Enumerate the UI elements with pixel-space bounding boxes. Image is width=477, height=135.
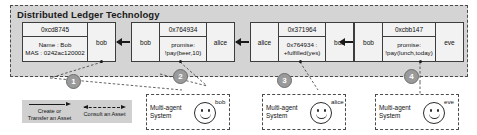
ledger-block-2-body-line2: !pay(beer,10) [165,49,201,57]
connector-node-4 [419,60,422,63]
ledger-block-3-main: 0x371964 0x764934 : +fulfilled(yes) [279,23,325,61]
ledger-block-1-body-line1: Name : Bob [39,41,72,49]
agent-alice-name: alice [331,98,344,105]
block-link-arrow-2 [236,41,249,43]
ledger-block-3-hash: 0x371964 [279,23,325,37]
ledger-block-4-body-line2: !pay(lunch,today) [385,49,432,57]
smiley-face-icon [423,102,445,124]
ledger-block-4[interactable]: bob 0xcbb147 promise: !pay(lunch,today) … [354,22,464,62]
multi-agent-system-eve-label: Multi-agent System [379,104,411,120]
legend-item-create-transfer-label: Create or Transfer an Asset [28,108,72,121]
solid-arrow-right-icon [29,102,71,107]
ledger-block-2-left-link: bob [132,23,160,61]
agent-bob[interactable]: bob [194,102,216,124]
ledger-block-4-body: promise: !pay(lunch,today) [383,37,435,61]
multi-agent-system-alice: Multi-agent System alice [262,94,346,130]
smiley-face-icon [194,102,216,124]
connector-node-3 [299,60,302,63]
diagram-canvas: Distributed Ledger Technology 0xcd8745 N… [0,0,477,135]
ledger-block-1-body-line2: MAS : 0242ac120002 [25,49,85,57]
legend-item-consult: Consult an Asset [77,105,132,117]
ledger-block-3-body-line1: 0x764934 : [287,41,318,49]
step-marker-2[interactable]: 2 [173,69,188,84]
ledger-block-3-body: 0x764934 : +fulfilled(yes) [279,37,325,61]
agent-alice[interactable]: alice [310,102,332,124]
agent-eve[interactable]: eve [423,102,445,124]
ledger-block-1-main: 0xcd8745 Name : Bob MAS : 0242ac120002 [23,23,87,61]
dashed-arrow-both-icon [84,105,126,110]
multi-agent-system-bob: Multi-agent System bob [146,94,230,130]
ledger-block-2-hash: 0x764934 [160,23,206,37]
legend-item-create-transfer: Create or Transfer an Asset [22,102,77,121]
ledger-block-4-body-line1: promise: [397,41,421,49]
multi-agent-system-alice-label: Multi-agent System [266,104,298,120]
ledger-block-1-body: Name : Bob MAS : 0242ac120002 [23,37,87,61]
agent-eve-name: eve [444,98,454,105]
ledger-block-2-body: promise: !pay(beer,10) [160,37,206,61]
multi-agent-system-bob-label: Multi-agent System [150,104,182,120]
connector-node-2 [179,60,182,63]
smiley-face-icon [310,102,332,124]
ledger-block-4-main: 0xcbb147 promise: !pay(lunch,today) [383,23,435,61]
step-marker-3[interactable]: 3 [277,73,292,88]
ledger-block-4-left-link: bob [355,23,383,61]
ledger-block-2-right-link: alice [206,23,234,61]
ledger-block-4-hash: 0xcbb147 [383,23,435,37]
ledger-block-4-right-link: eve [435,23,463,61]
ledger-block-1-right-link: bob [87,23,115,61]
connector-node-1 [100,60,103,63]
block-link-arrow-1 [117,41,130,43]
ledger-block-3-left-link: alice [251,23,279,61]
legend: Create or Transfer an Asset Consult an A… [22,100,132,123]
dlt-title: Distributed Ledger Technology [17,9,160,20]
step-marker-1[interactable]: 1 [66,74,81,89]
legend-item-consult-label: Consult an Asset [84,111,126,117]
agent-bob-name: bob [215,98,225,105]
ledger-block-3-body-line2: +fulfilled(yes) [284,49,321,57]
ledger-block-1[interactable]: 0xcd8745 Name : Bob MAS : 0242ac120002 b… [22,22,116,62]
ledger-block-2-main: 0x764934 promise: !pay(beer,10) [160,23,206,61]
ledger-block-2[interactable]: bob 0x764934 promise: !pay(beer,10) alic… [131,22,235,62]
ledger-block-2-body-line1: promise: [171,41,195,49]
step-marker-4[interactable]: 4 [404,69,419,84]
block-link-arrow-3 [340,41,353,43]
ledger-block-1-hash: 0xcd8745 [23,23,87,37]
multi-agent-system-eve: Multi-agent System eve [375,94,459,130]
